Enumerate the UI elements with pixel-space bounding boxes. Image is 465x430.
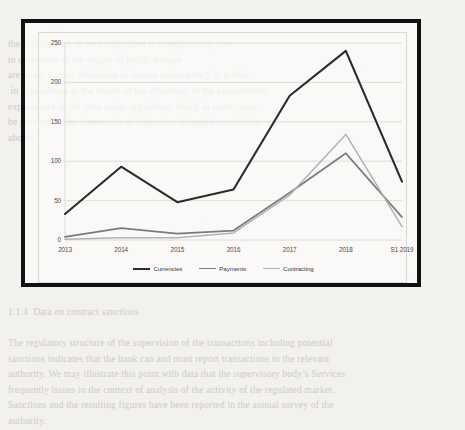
x-tick-label: 2015 [154, 246, 200, 253]
background-text-mid: 1.1.4 Data on contract sanctions The reg… [8, 305, 457, 430]
series-line-payments [65, 153, 402, 237]
x-tick-label: 2018 [323, 246, 369, 253]
x-tick-label: 2017 [267, 246, 313, 253]
y-tick-label: 50 [39, 197, 61, 204]
legend-swatch-icon [263, 268, 280, 269]
x-tick-label: 2016 [211, 246, 257, 253]
legend-item-contracting[interactable]: Contracting [263, 265, 314, 272]
legend-item-payments[interactable]: Payments [199, 265, 246, 272]
y-tick-label: 0 [39, 236, 61, 243]
series-lines [65, 51, 402, 239]
legend-label: Payments [219, 265, 246, 272]
legend-swatch-icon [133, 268, 150, 270]
x-tick-label: 2014 [98, 246, 144, 253]
legend-item-currencies[interactable]: Currencies [133, 265, 182, 272]
legend-label: Currencies [153, 265, 182, 272]
y-tick-label: 100 [39, 157, 61, 164]
x-tick-label: 2013 [42, 246, 88, 253]
y-tick-label: 150 [39, 118, 61, 125]
x-tick-label: S1 2019 [379, 246, 425, 253]
series-line-contracting [65, 134, 402, 239]
line-chart: 050100150200250 201320142015201620172018… [38, 32, 407, 283]
gridlines [65, 43, 402, 240]
y-tick-label: 250 [39, 39, 61, 46]
legend-swatch-icon [199, 268, 216, 269]
chart-legend: CurrenciesPaymentsContracting [39, 265, 408, 272]
y-tick-label: 200 [39, 78, 61, 85]
legend-label: Contracting [283, 265, 314, 272]
series-line-currencies [65, 51, 402, 214]
